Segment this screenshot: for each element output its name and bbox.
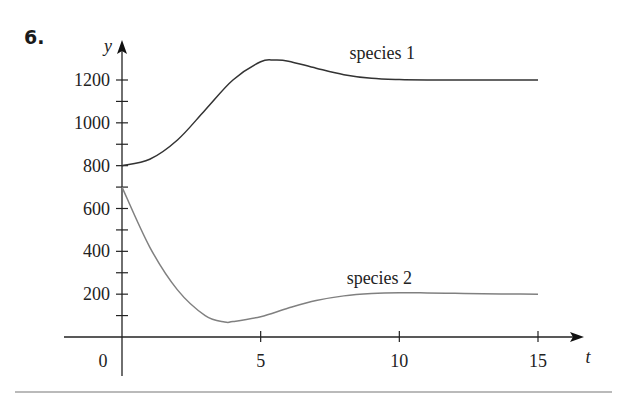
x-axis-label: t	[585, 347, 591, 367]
y-axis-label: y	[102, 36, 112, 56]
series-line-species-2	[122, 187, 538, 322]
line-chart: 20040060080010001200051015yt species 1sp…	[0, 0, 627, 407]
series-label: species 1	[349, 43, 414, 63]
x-tick-label: 10	[390, 351, 408, 371]
origin-label: 0	[99, 351, 108, 371]
x-tick-label: 15	[529, 351, 547, 371]
series-label: species 2	[347, 268, 412, 288]
x-tick-label: 5	[256, 351, 265, 371]
y-tick-label: 600	[83, 199, 110, 219]
y-tick-label: 200	[83, 284, 110, 304]
curves	[122, 60, 538, 323]
axes: 20040060080010001200051015yt	[64, 36, 591, 376]
y-tick-label: 1200	[74, 70, 110, 90]
series-line-species-1	[122, 60, 538, 166]
y-tick-label: 1000	[74, 113, 110, 133]
y-tick-label: 400	[83, 241, 110, 261]
y-tick-label: 800	[83, 156, 110, 176]
